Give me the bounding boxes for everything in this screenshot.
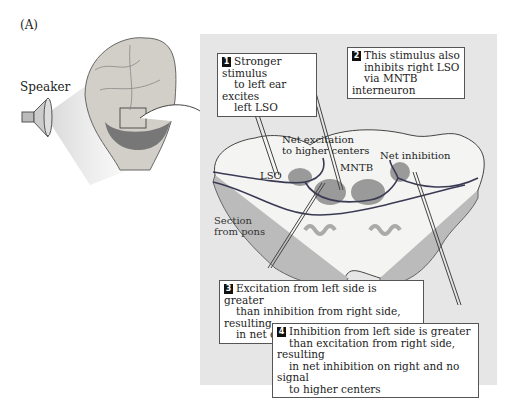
section-line1: Section: [214, 215, 265, 226]
net-excitation-line1: Net excitation: [282, 134, 369, 145]
section-label: Section from pons: [214, 215, 265, 237]
mntb-label: MNTB: [340, 162, 373, 174]
step-number-2: 2: [352, 51, 361, 61]
callout-2-line: inhibits right LSO: [364, 61, 459, 73]
net-excitation-line2: to higher centers: [282, 145, 369, 156]
callout-2-line: This stimulus also: [364, 49, 460, 61]
callout-4-line: Inhibition from left side is greater: [289, 325, 470, 337]
callout-1-line: left LSO: [234, 101, 278, 113]
step-number-3: 3: [224, 284, 233, 294]
step-number-4: 4: [277, 327, 286, 337]
callout-4-line: in net inhibition on right and no signal: [277, 360, 459, 384]
section-line2: from pons: [214, 226, 265, 237]
callout-1-line: to left ear excites: [222, 78, 286, 102]
callout-1: 1Stronger stimulus to left ear excites l…: [217, 53, 317, 117]
net-excitation-label: Net excitation to higher centers: [282, 134, 369, 156]
callout-4-line: to higher centers: [289, 383, 381, 395]
step-number-1: 1: [222, 57, 231, 67]
callout-2: 2This stimulus also inhibits right LSO v…: [347, 47, 465, 99]
net-inhibition-label: Net inhibition: [380, 150, 450, 162]
callout-4: 4Inhibition from left side is greater th…: [272, 323, 479, 398]
callout-3-line: Excitation from left side is greater: [224, 282, 377, 306]
callout-4-line: than excitation from right side, resulti…: [277, 337, 455, 361]
callout-2-line: via MNTB interneuron: [352, 72, 418, 96]
lso-label: LSO: [260, 170, 282, 182]
